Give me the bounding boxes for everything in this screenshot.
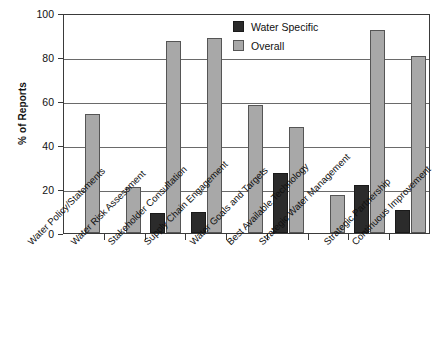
legend: Water SpecificOverall bbox=[233, 18, 368, 56]
y-tick-mark bbox=[58, 102, 63, 103]
y-tick-mark bbox=[58, 146, 63, 147]
bar-chart: % of Reports 020406080100 Water Policy/S… bbox=[0, 0, 444, 353]
legend-label: Water Specific bbox=[251, 21, 318, 33]
legend-swatch-specific bbox=[233, 21, 244, 32]
y-tick-label: 100 bbox=[24, 9, 54, 20]
legend-label: Overall bbox=[251, 40, 284, 52]
y-tick-label: 60 bbox=[24, 97, 54, 108]
y-tick-label: 40 bbox=[24, 141, 54, 152]
legend-swatch-overall bbox=[233, 40, 244, 51]
y-tick-label: 20 bbox=[24, 185, 54, 196]
y-tick-mark bbox=[58, 14, 63, 15]
x-axis-labels: Water Policy/StatementsWater Risk Assess… bbox=[0, 234, 444, 353]
y-tick-mark bbox=[58, 58, 63, 59]
legend-item: Water Specific bbox=[233, 18, 368, 35]
y-tick-label: 80 bbox=[24, 53, 54, 64]
legend-item: Overall bbox=[233, 37, 368, 54]
y-tick-mark bbox=[58, 190, 63, 191]
